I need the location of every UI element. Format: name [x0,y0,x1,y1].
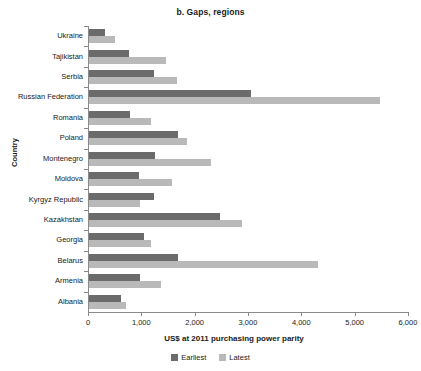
bar-latest [89,57,166,64]
bar-earliest [89,131,178,138]
bar-row: Ukraine [88,26,408,46]
y-axis-category-label: Georgia [56,236,83,244]
bar-latest [89,179,172,186]
legend-label: Earliest [181,354,206,362]
bar-latest [89,138,187,145]
y-axis-tick [84,271,88,272]
bar-earliest [89,193,154,200]
bar-latest [89,118,151,125]
x-axis-tick [301,312,302,316]
x-axis-tick-label: 5,000 [345,318,364,327]
bar-row: Kyrgyz Republic [88,189,408,209]
y-axis-category-label: Kazakhstan [44,216,83,224]
bar-earliest [89,70,154,77]
y-axis-tick [84,230,88,231]
bar-earliest [89,29,105,36]
legend: EarliestLatest [0,354,421,362]
bar-latest [89,240,151,247]
y-axis-tick [84,210,88,211]
y-axis-tick [84,169,88,170]
bar-latest [89,261,318,268]
y-axis-category-label: Armenia [55,277,83,285]
y-axis-tick [84,108,88,109]
bar-earliest [89,233,144,240]
y-axis-tick [84,26,88,27]
x-axis-tick [248,312,249,316]
y-axis-tick [84,189,88,190]
x-axis-tick [88,312,89,316]
bar-earliest [89,90,251,97]
bar-latest [89,200,140,207]
bar-row: Moldova [88,169,408,189]
bar-row: Kazakhstan [88,210,408,230]
bar-row: Romania [88,108,408,128]
x-axis-tick-label: 6,000 [399,318,418,327]
x-axis-tick [195,312,196,316]
bar-latest [89,159,211,166]
bar-row: Montenegro [88,149,408,169]
bar-latest [89,97,380,104]
page-title: b. Gaps, regions [0,7,421,17]
legend-label: Latest [229,354,249,362]
bar-latest [89,220,242,227]
bar-row: Serbia [88,67,408,87]
bar-earliest [89,295,121,302]
legend-swatch-icon [219,354,226,361]
x-axis-tick-label: 0 [86,318,90,327]
legend-swatch-icon [171,354,178,361]
y-axis-tick [84,292,88,293]
x-axis-tick-label: 1,000 [132,318,151,327]
y-axis-category-label: Moldova [55,175,83,183]
y-axis-category-label: Montenegro [43,155,83,163]
bar-earliest [89,111,130,118]
y-axis-category-label: Serbia [61,73,83,81]
bar-row: Poland [88,128,408,148]
bar-latest [89,302,126,309]
bar-row: Albania [88,292,408,312]
y-axis-category-label: Russian Federation [18,93,83,101]
y-axis-category-label: Tajikistan [52,53,83,61]
x-axis-tick-label: 3,000 [239,318,258,327]
bar-earliest [89,213,220,220]
y-axis-category-label: Romania [53,114,83,122]
x-axis-tick [141,312,142,316]
bar-earliest [89,254,178,261]
x-axis-tick [408,312,409,316]
bar-row: Russian Federation [88,87,408,107]
x-axis-tick-label: 2,000 [185,318,204,327]
plot-area: UkraineTajikistanSerbiaRussian Federatio… [88,26,408,312]
y-axis-tick [84,251,88,252]
y-axis-category-label: Kyrgyz Republic [29,196,83,204]
y-axis-category-label: Belarus [58,257,83,265]
bar-earliest [89,50,129,57]
chart-figure: b. Gaps, regions Country UkraineTajikist… [0,0,421,371]
bar-earliest [89,152,155,159]
legend-item-earliest[interactable]: Earliest [171,354,206,362]
y-axis-tick [84,149,88,150]
bar-row: Tajikistan [88,46,408,66]
bar-row: Armenia [88,271,408,291]
x-axis-title: US$ at 2011 purchasing power parity [60,334,408,343]
y-axis-category-label: Ukraine [57,32,83,40]
bar-row: Belarus [88,251,408,271]
x-axis-tick-label: 4,000 [292,318,311,327]
legend-item-latest[interactable]: Latest [219,354,249,362]
y-axis-category-label: Poland [60,134,83,142]
x-axis-tick [355,312,356,316]
bar-latest [89,281,161,288]
bar-row: Georgia [88,230,408,250]
y-axis-tick [84,67,88,68]
bar-earliest [89,274,140,281]
y-axis-tick [84,87,88,88]
bar-earliest [89,172,139,179]
y-axis-title: Country [10,123,19,183]
y-axis-category-label: Albania [58,298,83,306]
bar-latest [89,77,177,84]
bar-latest [89,36,115,43]
y-axis-tick [84,128,88,129]
y-axis-tick [84,46,88,47]
